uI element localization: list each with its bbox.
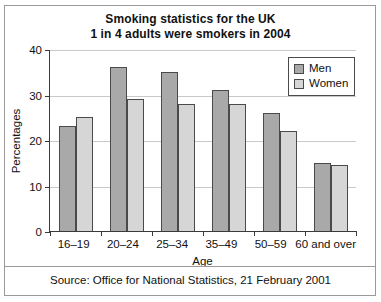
bar-men <box>161 72 178 231</box>
bar-women <box>280 131 297 231</box>
bar-group <box>50 50 101 231</box>
bar-men <box>263 113 280 231</box>
bar-men <box>314 163 331 231</box>
y-axis-tick <box>45 232 50 233</box>
y-axis-tick-label: 0 <box>36 226 42 238</box>
chart-subtitle: 1 in 4 adults were smokers in 2004 <box>0 27 381 42</box>
legend-swatch-men-icon <box>294 64 304 74</box>
source-divider <box>5 266 375 267</box>
bar-men <box>110 67 127 231</box>
y-axis-tick-label: 30 <box>29 90 42 102</box>
y-axis-tick-label: 20 <box>29 135 42 147</box>
bar-women <box>229 104 246 231</box>
y-axis-title: Percentages <box>9 50 23 232</box>
source-note: Source: Office for National Statistics, … <box>0 274 381 286</box>
legend-item-men: Men <box>294 61 348 76</box>
bar-men <box>212 90 229 231</box>
legend-label-men: Men <box>309 61 331 76</box>
chart-title: Smoking statistics for the UK <box>0 12 381 27</box>
bar-group <box>152 50 203 231</box>
x-axis-tick-label: 25–34 <box>148 238 197 250</box>
x-axis-tick-label: 35–49 <box>197 238 246 250</box>
legend-label-women: Women <box>309 76 348 91</box>
x-axis-tick-label: 16–19 <box>49 238 98 250</box>
bar-women <box>127 99 144 231</box>
y-axis-tick-label: 40 <box>29 44 42 56</box>
x-axis-tick-label: 60 and over <box>295 238 356 250</box>
bar-women <box>331 165 348 231</box>
y-axis-tick-label: 10 <box>29 181 42 193</box>
legend: Men Women <box>288 57 355 96</box>
bar-women <box>76 117 93 231</box>
chart-figure: Smoking statistics for the UK 1 in 4 adu… <box>0 0 381 302</box>
bar-group <box>203 50 254 231</box>
bar-group <box>101 50 152 231</box>
x-axis-labels: 16–1920–2425–3435–4950–5960 and over <box>49 238 356 250</box>
x-axis-tick-label: 50–59 <box>246 238 295 250</box>
bar-women <box>178 104 195 231</box>
legend-item-women: Women <box>294 76 348 91</box>
chart-title-block: Smoking statistics for the UK 1 in 4 adu… <box>0 12 381 42</box>
x-axis-tick-label: 20–24 <box>98 238 147 250</box>
legend-swatch-women-icon <box>294 79 304 89</box>
bar-men <box>59 126 76 231</box>
